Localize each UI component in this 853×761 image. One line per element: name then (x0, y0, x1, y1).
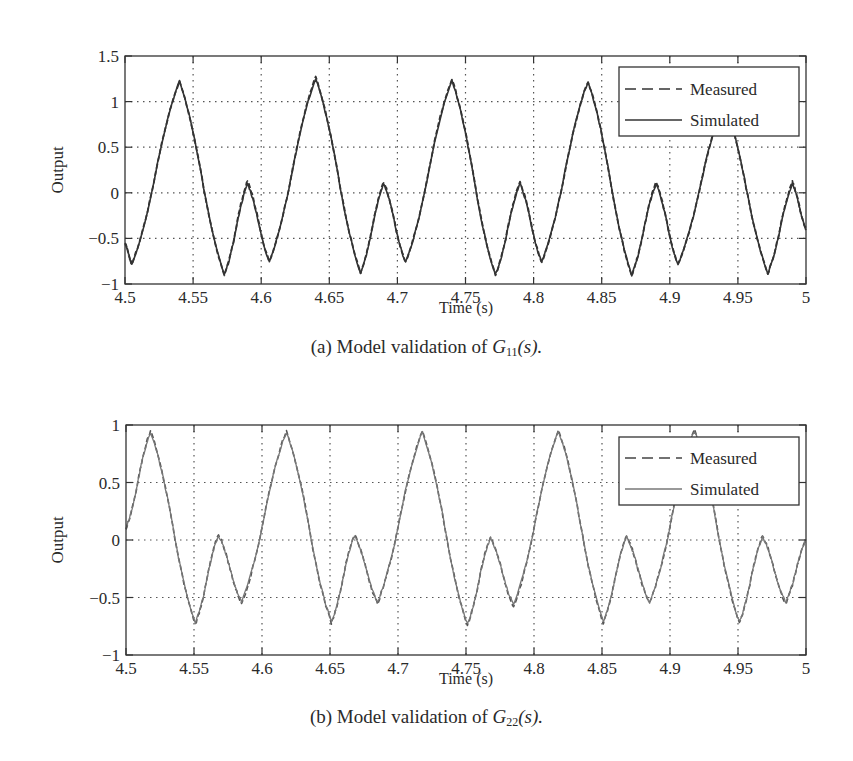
svg-text:0: 0 (112, 531, 121, 550)
legend-simulated-label: Simulated (690, 111, 759, 130)
svg-text:5: 5 (802, 659, 811, 678)
svg-text:0.5: 0.5 (98, 138, 119, 157)
legend-measured-label: Measured (690, 449, 758, 468)
svg-text:0: 0 (111, 184, 120, 203)
svg-text:−0.5: −0.5 (89, 589, 120, 608)
svg-text:−0.5: −0.5 (88, 229, 119, 248)
svg-text:−1: −1 (102, 646, 120, 665)
svg-text:4.65: 4.65 (314, 288, 344, 307)
plot-a-xlabel: Time (s) (439, 299, 493, 317)
caption-a-sub: 11 (506, 345, 518, 359)
svg-text:4.55: 4.55 (179, 659, 209, 678)
caption-a: (a) Model validation of G11(s). (0, 336, 853, 360)
plot-b-xlabel: Time (s) (439, 670, 493, 688)
svg-text:4.65: 4.65 (315, 659, 345, 678)
caption-b-symbol: G (493, 706, 507, 727)
svg-text:4.85: 4.85 (587, 659, 617, 678)
svg-text:4.9: 4.9 (659, 288, 680, 307)
plot-b-legend: Measured Simulated (619, 437, 799, 505)
legend-measured-label: Measured (690, 80, 758, 99)
svg-text:4.7: 4.7 (387, 659, 409, 678)
svg-text:−1: −1 (101, 275, 119, 294)
svg-text:4.8: 4.8 (523, 288, 544, 307)
svg-text:4.7: 4.7 (387, 288, 409, 307)
svg-text:1.5: 1.5 (98, 47, 119, 66)
caption-b-prefix: (b) Model validation of (310, 706, 493, 727)
plot-b-ylabel: Output (48, 516, 67, 564)
svg-text:4.9: 4.9 (659, 659, 680, 678)
caption-b-sub: 22 (506, 715, 518, 729)
svg-text:4.6: 4.6 (251, 659, 272, 678)
svg-text:4.8: 4.8 (523, 659, 544, 678)
plot-a-ylabel: Output (48, 146, 67, 194)
caption-a-suffix: (s). (518, 336, 543, 357)
svg-text:0.5: 0.5 (99, 474, 120, 493)
plot-a: 4.54.554.64.654.74.754.84.854.94.955−1−0… (0, 0, 853, 761)
svg-text:4.55: 4.55 (178, 288, 208, 307)
caption-b: (b) Model validation of G22(s). (0, 706, 853, 730)
svg-text:5: 5 (802, 288, 811, 307)
svg-text:4.95: 4.95 (723, 288, 753, 307)
caption-b-suffix: (s). (518, 706, 543, 727)
svg-text:4.95: 4.95 (723, 659, 753, 678)
caption-a-symbol: G (492, 336, 506, 357)
svg-text:4.85: 4.85 (587, 288, 617, 307)
plot-a-legend: Measured Simulated (619, 67, 799, 136)
svg-text:1: 1 (112, 416, 121, 435)
legend-simulated-label: Simulated (690, 480, 759, 499)
caption-a-prefix: (a) Model validation of (311, 336, 493, 357)
svg-text:4.6: 4.6 (251, 288, 272, 307)
svg-text:1: 1 (111, 93, 120, 112)
